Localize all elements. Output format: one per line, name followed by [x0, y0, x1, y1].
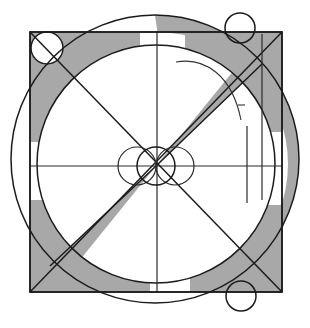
figure-root: Geometric construction diagram Technical… — [0, 0, 310, 328]
geometric-construction-figure: Geometric construction diagram Technical… — [0, 0, 310, 328]
shade-bottom-left-corner — [30, 200, 155, 292]
